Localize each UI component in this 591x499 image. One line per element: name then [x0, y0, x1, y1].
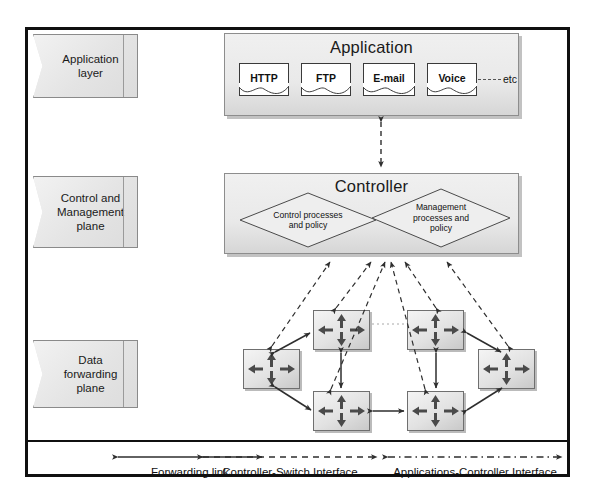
legend-arrow-dashdot-icon	[380, 450, 570, 464]
layer-tape-application: Application layer	[33, 34, 138, 98]
doc-wave-icon	[363, 83, 415, 97]
legend-applications-controller-interface-label: Applications-Controller Interface	[380, 466, 570, 478]
switch-bottom-left[interactable]	[313, 391, 370, 431]
doc-wave-icon	[301, 83, 351, 97]
four-way-arrow-icon	[479, 350, 534, 388]
app-item-ftp[interactable]: FTP	[301, 63, 351, 96]
switch-top-left[interactable]	[313, 310, 370, 350]
sdn-architecture-diagram: Application layer Control and Management…	[0, 0, 591, 499]
four-way-arrow-icon	[314, 392, 369, 430]
doc-wave-icon	[239, 83, 289, 97]
control-processes-label: Control processes and policy	[239, 192, 377, 248]
layer-tape-application-label: Application layer	[34, 35, 137, 97]
legend-controller-switch-interface: Controller-Switch Interface	[195, 450, 385, 482]
application-panel-title: Application	[225, 38, 518, 57]
app-item-voice[interactable]: Voice	[427, 63, 477, 96]
layer-tape-data-forwarding: Data forwarding plane	[33, 340, 138, 408]
switch-left[interactable]	[243, 349, 300, 389]
switch-right[interactable]	[478, 349, 535, 389]
switch-top-right[interactable]	[407, 310, 464, 350]
four-way-arrow-icon	[244, 350, 299, 388]
four-way-arrow-icon	[408, 311, 463, 349]
app-item-http[interactable]: HTTP	[239, 63, 289, 96]
etc-connector-line	[478, 79, 501, 80]
legend-divider	[25, 440, 570, 442]
layer-tape-control-management-label: Control and Management plane	[34, 177, 137, 247]
etc-label: etc	[503, 73, 517, 85]
management-processes-label-text: Management processes and policy	[371, 188, 511, 248]
legend-arrow-dashed-icon	[195, 450, 385, 464]
four-way-arrow-icon	[314, 311, 369, 349]
doc-wave-icon	[427, 83, 477, 97]
layer-tape-control-management: Control and Management plane	[33, 176, 138, 248]
legend-controller-switch-interface-label: Controller-Switch Interface	[195, 466, 385, 478]
layer-tape-data-forwarding-label: Data forwarding plane	[34, 341, 137, 407]
top-caption-strip	[0, 0, 591, 16]
control-processes-diamond[interactable]: Control processes and policy	[239, 192, 377, 248]
four-way-arrow-icon	[408, 392, 463, 430]
legend-applications-controller-interface: Applications-Controller Interface	[380, 450, 570, 482]
switch-bottom-right[interactable]	[407, 391, 464, 431]
app-item-email[interactable]: E-mail	[363, 63, 415, 96]
management-processes-diamond[interactable]: Management processes and policy	[371, 188, 511, 248]
